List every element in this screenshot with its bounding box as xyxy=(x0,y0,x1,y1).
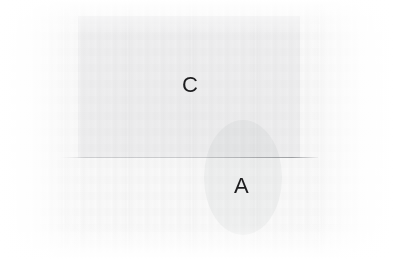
label-c: C xyxy=(182,74,198,96)
diagram-canvas: C A xyxy=(0,0,393,259)
horizontal-divider-line xyxy=(60,157,318,158)
label-a: A xyxy=(234,175,249,197)
shape-layer: C A xyxy=(0,0,393,259)
